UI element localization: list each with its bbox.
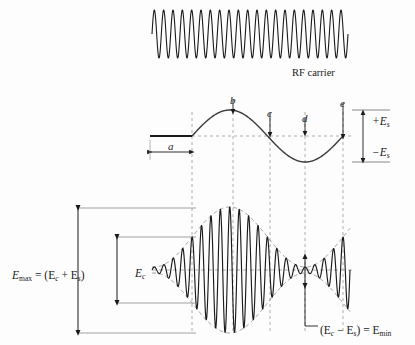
ec-label: Ec <box>135 268 145 281</box>
emax-equation-label: Emax = (Ec + Es) <box>12 270 85 283</box>
dimension-arrows <box>78 208 318 333</box>
am-modulation-figure <box>0 0 415 345</box>
marker-label-b: b <box>230 95 236 106</box>
minus-es-label: −Es <box>372 147 390 160</box>
marker-label-c: c <box>267 108 272 119</box>
marker-label-d: d <box>302 113 308 124</box>
emin-equation-label: (Ec − Es) = Emin <box>320 325 391 338</box>
dimension-a-label: a <box>168 141 174 152</box>
rf-carrier-label: RF carrier <box>292 68 335 79</box>
rf-carrier-wave <box>152 10 348 58</box>
plus-es-label: +Es <box>372 116 390 129</box>
marker-label-e: e <box>340 98 345 109</box>
